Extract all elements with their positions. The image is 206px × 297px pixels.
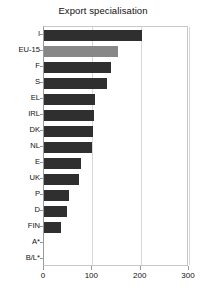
y-label-uk: UK — [0, 174, 40, 182]
bars-layer — [44, 27, 187, 265]
y-label-irl: IRL — [0, 110, 40, 118]
x-tick-100 — [91, 266, 92, 270]
bar-row — [44, 189, 187, 201]
x-label-0: 0 — [41, 271, 45, 280]
x-tick-300 — [188, 266, 189, 270]
bar-p — [44, 190, 69, 201]
y-label-f: F — [0, 62, 40, 70]
bar-fin — [44, 222, 61, 233]
bar-row — [44, 253, 187, 265]
y-label-nl: NL — [0, 142, 40, 150]
bar-eu-15 — [44, 46, 118, 57]
bar-nl — [44, 142, 92, 153]
y-label-b-l-: B/L* — [0, 254, 40, 262]
bar-s — [44, 78, 107, 89]
bar-row — [44, 61, 187, 73]
x-label-100: 100 — [85, 271, 98, 280]
bar-row — [44, 93, 187, 105]
y-label-a-: A* — [0, 238, 40, 246]
x-label-300: 300 — [181, 271, 194, 280]
bar-row — [44, 205, 187, 217]
y-label-i: I — [0, 30, 40, 38]
y-label-el: EL — [0, 94, 40, 102]
chart-figure: Export specialisation IEU-15FSELIRLDKNLE… — [0, 0, 206, 297]
bar-row — [44, 29, 187, 41]
bar-row — [44, 125, 187, 137]
bar-row — [44, 141, 187, 153]
gridline-300 — [189, 27, 190, 265]
y-axis-category-labels: IEU-15FSELIRLDKNLEUKPDFINA*B/L* — [0, 26, 40, 266]
x-label-200: 200 — [133, 271, 146, 280]
bar-e — [44, 158, 81, 169]
bar-row — [44, 77, 187, 89]
y-label-d: D — [0, 206, 40, 214]
bar-row — [44, 173, 187, 185]
bar-row — [44, 109, 187, 121]
bar-row — [44, 157, 187, 169]
bar-i — [44, 30, 142, 41]
y-label-eu-15: EU-15 — [0, 46, 40, 54]
y-label-p: P — [0, 190, 40, 198]
x-axis-tick-labels: 0100200300 — [0, 271, 206, 283]
bar-row — [44, 237, 187, 249]
bar-d — [44, 206, 67, 217]
bar-f — [44, 62, 111, 73]
bar-uk — [44, 174, 79, 185]
y-label-e: E — [0, 158, 40, 166]
bar-row — [44, 221, 187, 233]
bar-el — [44, 94, 95, 105]
y-label-fin: FIN — [0, 222, 40, 230]
bar-irl — [44, 110, 94, 121]
y-label-dk: DK — [0, 126, 40, 134]
bar-dk — [44, 126, 93, 137]
x-tick-200 — [140, 266, 141, 270]
x-tick-0 — [43, 266, 44, 270]
plot-area — [43, 26, 188, 266]
bar-row — [44, 45, 187, 57]
x-axis-ticks — [43, 266, 189, 270]
y-label-s: S — [0, 78, 40, 86]
chart-title: Export specialisation — [0, 5, 206, 16]
